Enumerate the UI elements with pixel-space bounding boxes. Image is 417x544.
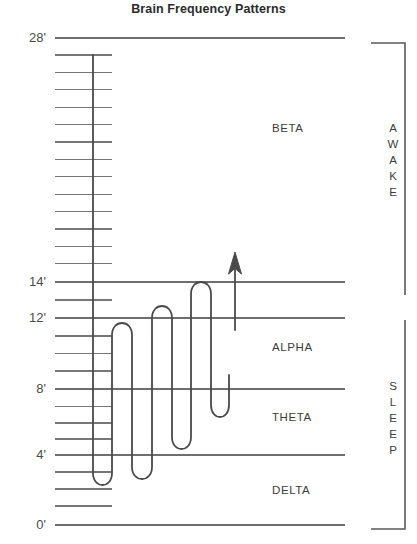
axis-ticks [55, 55, 112, 506]
state-letter: L [384, 394, 402, 410]
state-letter: S [384, 378, 402, 394]
state-letter: K [384, 168, 402, 184]
band-label-alpha: ALPHA [272, 341, 313, 353]
state-letter: E [384, 184, 402, 200]
state-letter: A [384, 120, 402, 136]
state-label-awake: A W A K E [384, 120, 402, 200]
chart-drawing-layer [0, 0, 417, 544]
state-letter: E [384, 410, 402, 426]
state-letter: W [384, 136, 402, 152]
band-label-theta: THETA [272, 411, 312, 423]
band-label-delta: DELTA [272, 484, 310, 496]
state-label-sleep: S L E E P [384, 378, 402, 458]
state-letter: E [384, 426, 402, 442]
state-letter: P [384, 442, 402, 458]
brain-wave-trace [93, 55, 229, 485]
band-label-beta: BETA [272, 122, 304, 134]
chart-canvas: Brain Frequency Patterns 28' 14' 12' 8' … [0, 0, 417, 544]
state-letter: A [384, 152, 402, 168]
